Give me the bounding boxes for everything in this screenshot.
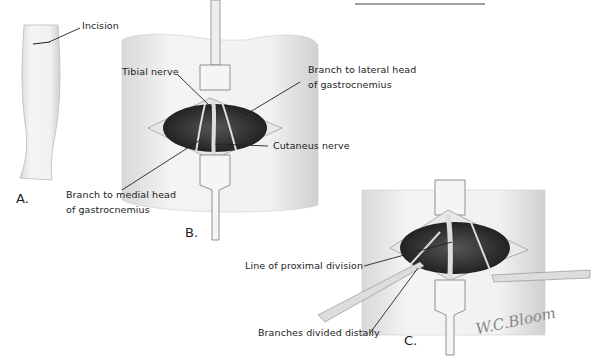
- label-branches-divided-distally: Branches divided distally: [258, 327, 380, 339]
- label-line-proximal-division: Line of proximal division: [245, 260, 363, 272]
- label-tibial-nerve: Tibial nerve: [122, 66, 179, 78]
- panel-a-leg: [20, 25, 80, 180]
- panel-label-c: C.: [404, 333, 417, 348]
- panel-label-b: B.: [185, 225, 198, 240]
- label-branch-medial-line2: of gastrocnemius: [66, 204, 150, 216]
- panel-b-exposure: [122, 0, 318, 240]
- label-incision: Incision: [82, 20, 119, 32]
- label-branch-medial-line1: Branch to medial head: [66, 189, 176, 201]
- label-branch-lateral-line2: of gastrocnemius: [308, 79, 392, 91]
- label-cutaneus-nerve: Cutaneus nerve: [273, 140, 350, 152]
- label-branch-lateral-line1: Branch to lateral head: [308, 64, 416, 76]
- illustration-drawing: [0, 0, 600, 360]
- panel-label-a: A.: [16, 191, 29, 206]
- surgical-illustration: Incision A. Tibial nerve Branch to later…: [0, 0, 600, 360]
